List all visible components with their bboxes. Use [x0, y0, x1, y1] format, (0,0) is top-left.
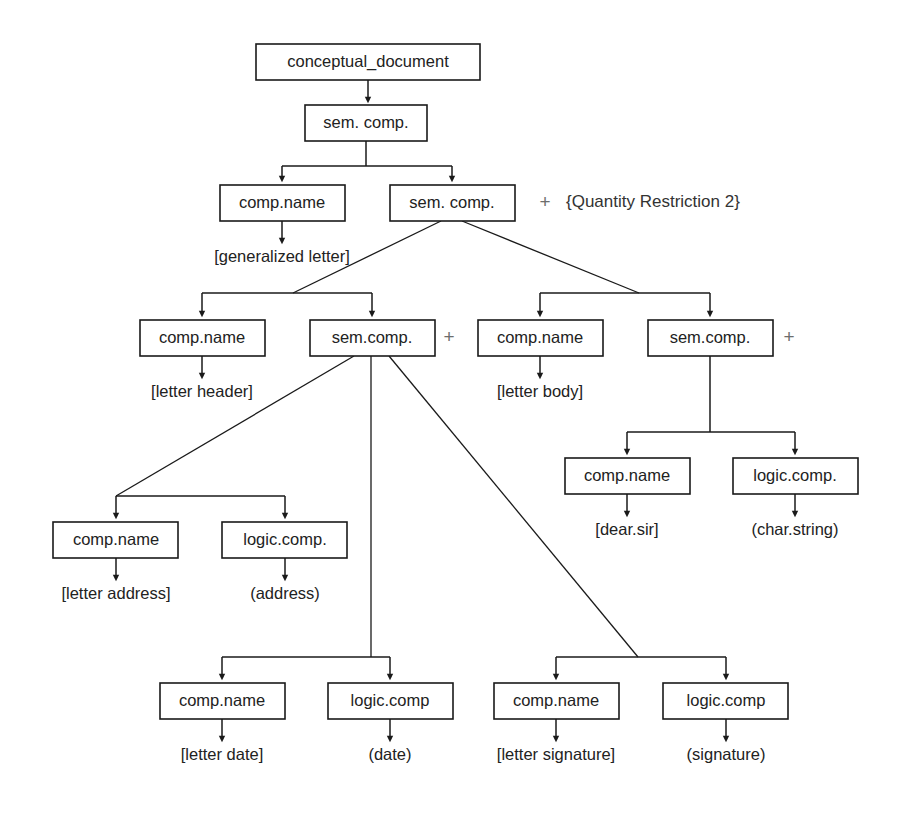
- node-comp-name-address[interactable]: comp.name: [53, 522, 178, 558]
- node-comp-name-header[interactable]: comp.name: [140, 320, 265, 356]
- plus-body-icon: +: [783, 326, 794, 347]
- node-sem-comp-1-label: sem. comp.: [323, 113, 408, 131]
- plus-quantity-icon: +: [539, 191, 550, 212]
- node-sem-comp-body[interactable]: sem.comp.: [648, 320, 773, 356]
- node-logic-comp-date[interactable]: logic.comp: [328, 683, 453, 719]
- leaf-generalized-letter: [generalized letter]: [214, 247, 350, 265]
- leaf-letter-address: [letter address]: [61, 584, 170, 602]
- leaf-letter-body: [letter body]: [497, 382, 583, 400]
- node-logic-comp-char-string-label: logic.comp.: [753, 466, 836, 484]
- node-comp-name-signature-label: comp.name: [513, 691, 599, 709]
- leaf-letter-header: [letter header]: [151, 382, 253, 400]
- plus-header-icon: +: [443, 326, 454, 347]
- node-comp-name-address-label: comp.name: [73, 530, 159, 548]
- node-comp-name-generalized-label: comp.name: [239, 193, 325, 211]
- node-comp-name-dear-sir-label: comp.name: [584, 466, 670, 484]
- node-sem-comp-header[interactable]: sem.comp.: [310, 320, 435, 356]
- node-logic-comp-signature-label: logic.comp: [687, 691, 766, 709]
- node-layer: conceptual_document sem. comp. comp.name…: [53, 44, 858, 763]
- node-comp-name-dear-sir[interactable]: comp.name: [565, 458, 690, 494]
- node-sem-comp-2-label: sem. comp.: [409, 193, 494, 211]
- node-logic-comp-date-label: logic.comp: [351, 691, 430, 709]
- node-sem-comp-header-label: sem.comp.: [332, 328, 413, 346]
- node-comp-name-date-label: comp.name: [179, 691, 265, 709]
- leaf-signature: (signature): [687, 745, 766, 763]
- node-comp-name-header-label: comp.name: [159, 328, 245, 346]
- edge-header-left-diagonal: [116, 356, 354, 496]
- node-logic-comp-signature[interactable]: logic.comp: [663, 683, 788, 719]
- diagram-canvas: conceptual_document sem. comp. comp.name…: [0, 0, 902, 818]
- node-logic-comp-char-string[interactable]: logic.comp.: [733, 458, 858, 494]
- node-sem-comp-1[interactable]: sem. comp.: [305, 105, 427, 141]
- leaf-date: (date): [368, 745, 411, 763]
- tree-diagram: conceptual_document sem. comp. comp.name…: [0, 0, 902, 818]
- edge-sem-comp-2-right-diagonal: [462, 221, 639, 293]
- node-comp-name-date[interactable]: comp.name: [160, 683, 285, 719]
- leaf-letter-date: [letter date]: [181, 745, 264, 763]
- node-sem-comp-2[interactable]: sem. comp.: [390, 185, 515, 221]
- edge-header-right-diagonal: [389, 356, 638, 657]
- node-comp-name-body-label: comp.name: [497, 328, 583, 346]
- leaf-dear-sir: [dear.sir]: [595, 520, 658, 538]
- node-logic-comp-address[interactable]: logic.comp.: [222, 522, 347, 558]
- node-conceptual-document[interactable]: conceptual_document: [256, 44, 480, 80]
- leaf-char-string: (char.string): [751, 520, 838, 538]
- node-comp-name-generalized[interactable]: comp.name: [220, 185, 345, 221]
- quantity-restriction-label: {Quantity Restriction 2}: [566, 192, 740, 211]
- leaf-letter-signature: [letter signature]: [497, 745, 615, 763]
- node-conceptual-document-label: conceptual_document: [287, 52, 449, 71]
- node-comp-name-signature[interactable]: comp.name: [494, 683, 619, 719]
- edge-layer: [116, 80, 795, 739]
- node-sem-comp-body-label: sem.comp.: [670, 328, 751, 346]
- node-logic-comp-address-label: logic.comp.: [243, 530, 326, 548]
- node-comp-name-body[interactable]: comp.name: [478, 320, 603, 356]
- leaf-address: (address): [250, 584, 320, 602]
